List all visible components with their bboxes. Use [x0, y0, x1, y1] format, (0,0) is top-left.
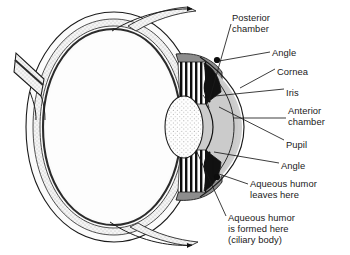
optic-nerve-sheath: [14, 53, 44, 96]
angle-marker-superior: [214, 57, 220, 63]
lens: [165, 96, 203, 158]
label-iris: Iris: [286, 87, 299, 98]
label-aqueous-humor-formed: Aqueous humor is formed here (ciliary bo…: [228, 212, 295, 246]
leader-aqueous-leaves: [219, 174, 248, 184]
label-aqueous-humor-leaves: Aqueous humor leaves here: [250, 178, 317, 200]
label-posterior-chamber: Posterior chamber: [232, 12, 270, 34]
eye-anatomy-diagram: Posterior chamber Angle Cornea Iris Ante…: [0, 0, 350, 255]
leader-cornea: [240, 69, 275, 88]
angle-marker-inferior: [214, 174, 220, 180]
label-angle-top: Angle: [272, 47, 296, 58]
label-pupil: Pupil: [286, 139, 307, 150]
eye-cross-section-illustration: [0, 0, 350, 255]
label-cornea: Cornea: [277, 66, 308, 77]
label-anterior-chamber: Anterior chamber: [288, 105, 325, 127]
label-angle-bottom: Angle: [281, 160, 305, 171]
leader-angle-top: [219, 52, 270, 61]
vitreous-body: [46, 32, 178, 222]
